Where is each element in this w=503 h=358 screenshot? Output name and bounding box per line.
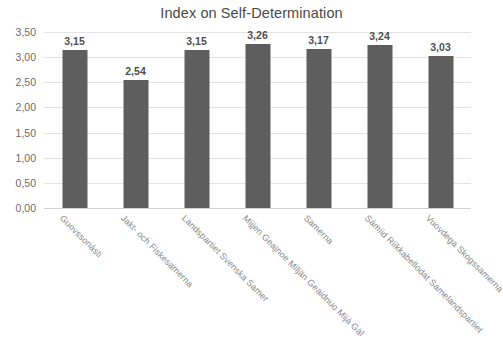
bar[interactable] [245, 44, 270, 208]
x-axis: GuovssonástiJakt- och FiskesamernaLandsp… [44, 209, 471, 357]
plot-area: 3,152,543,153,263,173,243,03 [44, 32, 471, 208]
y-axis: 0,000,501,001,502,002,503,003,50 [0, 32, 40, 208]
bar[interactable] [62, 50, 87, 208]
y-tick-label: 1,50 [16, 127, 36, 139]
y-tick-label: 0,50 [16, 177, 36, 189]
bar[interactable] [123, 80, 148, 208]
chart-title: Index on Self-Determination [0, 5, 503, 21]
bar-value-label: 3,24 [369, 30, 389, 42]
y-tick-label: 2,00 [16, 101, 36, 113]
y-tick-label: 0,00 [16, 202, 36, 214]
bar-slot: 3,24 [349, 32, 410, 208]
bar-value-label: 2,54 [125, 65, 145, 77]
x-tick-label: Jakt- och Fiskesamerna [118, 213, 194, 289]
chart-container: Index on Self-Determination 0,000,501,00… [0, 0, 503, 358]
x-tick-label: Mijjen Geajnoe Miljän Geaidnuo Mijá Gäl [240, 213, 365, 338]
x-tick-label: Sámiid Riikkabellodat Samelandspartiet [362, 213, 484, 335]
bar-value-label: 3,15 [64, 35, 84, 47]
bar[interactable] [184, 50, 209, 208]
y-tick-label: 3,00 [16, 51, 36, 63]
y-tick-label: 1,00 [16, 152, 36, 164]
bar-slot: 3,15 [44, 32, 105, 208]
x-tick-label: Samerna [301, 213, 334, 246]
bar[interactable] [306, 49, 331, 208]
bar[interactable] [367, 45, 392, 208]
bar-slot: 3,15 [166, 32, 227, 208]
bar[interactable] [428, 56, 453, 208]
bar-slot: 3,17 [288, 32, 349, 208]
y-tick-label: 3,50 [16, 26, 36, 38]
bar-slot: 3,26 [227, 32, 288, 208]
y-tick-label: 2,50 [16, 76, 36, 88]
bar-value-label: 3,15 [186, 35, 206, 47]
bar-value-label: 3,17 [308, 34, 328, 46]
bar-slot: 3,03 [410, 32, 471, 208]
bar-slot: 2,54 [105, 32, 166, 208]
bar-value-label: 3,26 [247, 29, 267, 41]
x-tick-label: Guovssonásti [57, 213, 103, 259]
bar-value-label: 3,03 [430, 41, 450, 53]
